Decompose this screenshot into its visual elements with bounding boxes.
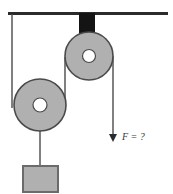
pulley-diagram-svg: F = ?	[0, 0, 173, 194]
force-arrow-down-icon	[109, 134, 117, 142]
pulley-diagram-root: F = ?	[0, 0, 173, 194]
fixed-pulley-hub	[83, 50, 96, 63]
force-label: F = ?	[121, 131, 145, 142]
movable-pulley-hub	[33, 98, 47, 112]
hanging-block	[23, 166, 58, 192]
